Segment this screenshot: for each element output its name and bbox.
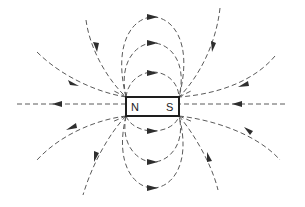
field-loop-lower-middle — [125, 116, 181, 162]
north-pole-label: N — [131, 101, 139, 113]
arrow-right-icon — [147, 40, 158, 46]
upper-loops — [122, 14, 184, 97]
lower-loops — [122, 116, 183, 191]
field-loop-upper-middle — [124, 43, 181, 97]
field-line-lower-left-shallow — [37, 116, 126, 160]
field-line-upper-left-shallow — [37, 52, 126, 97]
field-stub — [112, 90, 126, 97]
arrow-left-icon — [66, 123, 77, 130]
magnetic-field-diagram: N S — [0, 0, 305, 207]
arrow-left-icon — [232, 101, 242, 107]
arrow-right-icon — [147, 128, 158, 134]
field-loop-lower-outer — [122, 116, 183, 188]
arrow-up-icon — [244, 127, 253, 135]
field-line-lower-left-steep — [83, 116, 126, 195]
field-line-lower-right-steep — [179, 116, 218, 190]
lower-right-open-lines — [179, 116, 280, 190]
field-line-upper-right-steep — [179, 8, 220, 97]
lower-left-open-lines — [37, 116, 126, 195]
field-loop-upper-outer — [122, 17, 184, 97]
field-loop-lower-inner — [126, 116, 179, 131]
arrow-right-icon — [147, 14, 158, 20]
bar-magnet: N S — [126, 97, 179, 116]
arrow-left-icon — [52, 101, 62, 107]
field-loop-upper-inner — [126, 72, 179, 97]
arrow-right-icon — [147, 185, 158, 191]
arrow-right-icon — [147, 159, 158, 165]
south-pole-label: S — [166, 101, 173, 113]
arrow-right-icon — [147, 70, 158, 76]
arrow-down-icon — [211, 41, 216, 52]
field-line-lower-right-shallow — [179, 116, 280, 160]
upper-right-open-lines — [179, 8, 275, 97]
upper-left-open-lines — [37, 20, 126, 97]
field-line-upper-left-steep — [86, 20, 126, 97]
arrow-down-icon — [93, 42, 99, 52]
arrow-up-icon — [207, 152, 212, 162]
field-line-upper-right-shallow — [179, 56, 275, 97]
